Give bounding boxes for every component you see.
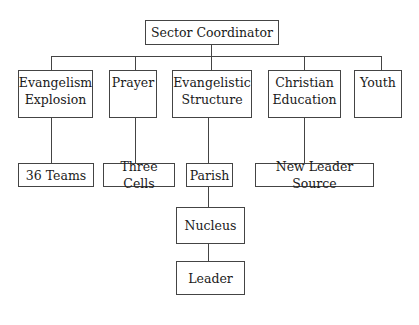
connector-to-three-cells <box>135 117 136 163</box>
node-evangelistic-structure: Evangelistic Structure <box>172 70 252 118</box>
node-label: Three Cells <box>104 158 174 192</box>
connector-to-parish <box>208 117 209 163</box>
connector-to-youth <box>381 56 382 70</box>
connector-to-nucleus <box>208 186 209 207</box>
node-label-line1: Christian <box>272 74 336 91</box>
connector-to-christian-education <box>304 56 305 70</box>
connector-to-new-leader-source <box>304 117 305 163</box>
node-prayer: Prayer <box>109 70 157 118</box>
node-label: Nucleus <box>185 217 237 234</box>
node-label-line1: Prayer <box>112 74 154 91</box>
node-label-line1: Evangelistic <box>173 74 251 91</box>
node-label: Parish <box>190 167 230 184</box>
connector-to-36-teams <box>51 117 52 163</box>
org-chart: Sector Coordinator Evangelism Explosion … <box>0 0 419 325</box>
connector-to-evangelistic-structure <box>211 56 212 70</box>
connector-to-evangelism-explosion <box>51 56 52 70</box>
node-label-line1: Evangelism <box>19 74 92 91</box>
node-sector-coordinator: Sector Coordinator <box>145 20 279 45</box>
connector-horizontal-bar <box>51 56 381 57</box>
node-label-line2: Explosion <box>19 91 92 108</box>
connector-to-prayer <box>135 56 136 70</box>
node-three-cells: Three Cells <box>103 163 175 187</box>
node-christian-education: Christian Education <box>268 70 341 118</box>
node-leader: Leader <box>176 261 245 295</box>
node-parish: Parish <box>186 163 233 187</box>
node-nucleus: Nucleus <box>176 207 245 244</box>
node-new-leader-source: New Leader Source <box>255 163 374 187</box>
node-label-line1: Youth <box>360 74 396 91</box>
node-label-line2: Education <box>272 91 336 108</box>
node-36-teams: 36 Teams <box>18 163 94 187</box>
node-label: Sector Coordinator <box>151 24 273 41</box>
node-label-line2: Structure <box>173 91 251 108</box>
node-label: 36 Teams <box>26 167 86 184</box>
connector-to-leader <box>208 243 209 261</box>
node-evangelism-explosion: Evangelism Explosion <box>18 70 93 118</box>
connector-root-down <box>211 44 212 56</box>
node-label: New Leader Source <box>256 158 373 192</box>
node-label: Leader <box>188 270 233 287</box>
node-youth: Youth <box>354 70 402 118</box>
